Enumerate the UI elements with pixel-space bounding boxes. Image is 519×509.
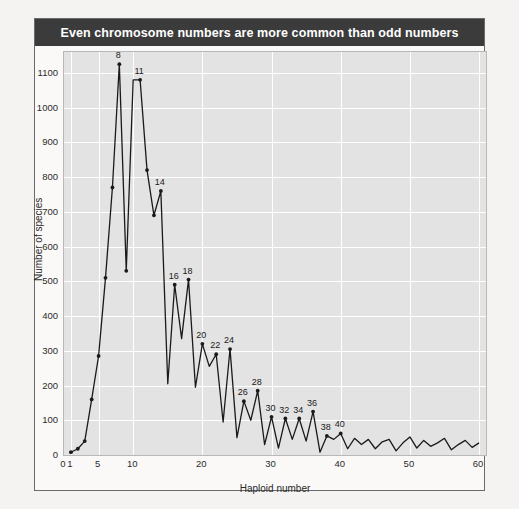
y-tick-label: 700: [42, 205, 63, 216]
y-tick-label: 400: [42, 310, 63, 321]
chart-figure: Even chromosome numbers are more common …: [34, 18, 485, 491]
y-tick-label: 200: [42, 379, 63, 390]
plot-area: [63, 51, 487, 456]
x-tick-label: 10: [127, 454, 138, 469]
page-title: Even chromosome numbers are more common …: [60, 26, 458, 40]
y-tick-label: 100: [42, 414, 63, 425]
y-tick-label: 600: [42, 240, 63, 251]
data-series-line: [64, 52, 486, 455]
x-tick-label: 20: [196, 454, 207, 469]
y-tick-label: 500: [42, 275, 63, 286]
x-tick-label: 30: [265, 454, 276, 469]
y-tick-label: 900: [42, 136, 63, 147]
y-tick-label: 800: [42, 171, 63, 182]
plot-region: Number of species 0100200300400500600700…: [35, 46, 484, 490]
chart-title-bar: Even chromosome numbers are more common …: [35, 19, 484, 46]
y-tick-label: 300: [42, 344, 63, 355]
x-tick-label: 50: [404, 454, 415, 469]
x-tick-label: 60: [473, 454, 484, 469]
y-tick-label: 1100: [38, 66, 63, 77]
x-tick-label: 40: [334, 454, 345, 469]
x-axis-label: Haploid number: [63, 483, 487, 494]
x-tick-label: 0: [60, 454, 65, 469]
y-tick-label: 1000: [37, 101, 63, 112]
x-tick-label: 1: [67, 454, 72, 469]
x-tick-label: 5: [95, 454, 100, 469]
